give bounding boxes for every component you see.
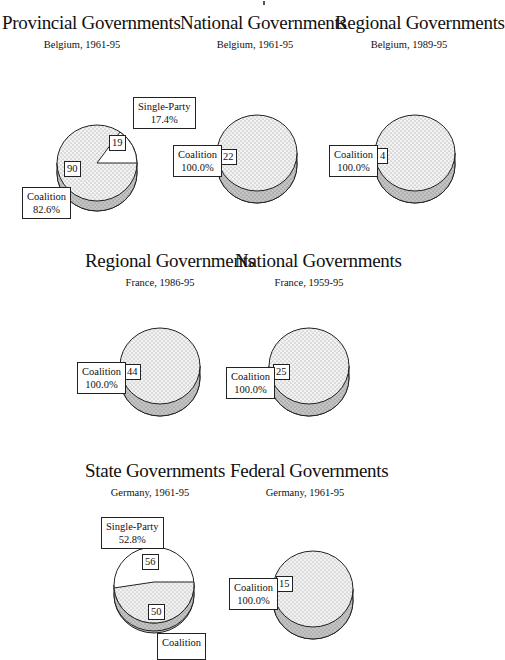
chart-subtitle: France, 1959-95 (235, 277, 383, 288)
label-pct: 17.4% (138, 113, 191, 126)
slice-count-coalition: 50 (148, 604, 165, 620)
label-name: Coalition (234, 581, 273, 594)
label-pct: 100.0% (82, 378, 121, 391)
label-name: Coalition (178, 148, 217, 161)
chart-title: Provincial Governments (2, 12, 162, 34)
slice-label-coalition: Coalition (157, 633, 206, 660)
chart-title: Regional Governments (335, 12, 483, 34)
chart-subtitle: Belgium, 1961-95 (2, 39, 162, 50)
chart-title: National Governments (235, 250, 383, 272)
label-pct: 82.6% (27, 203, 66, 216)
label-name: Coalition (162, 636, 201, 649)
chart-subtitle: Germany, 1961-95 (85, 487, 215, 498)
slice-label-single-party: Single-Party 52.8% (101, 517, 164, 549)
label-pct: 100.0% (231, 383, 270, 396)
chart-subtitle: Belgium, 1961-95 (180, 39, 330, 50)
slice-count-coalition: 15 (276, 576, 293, 592)
chart-title: Federal Governments (230, 460, 380, 482)
chart-title: Regional Governments (85, 250, 235, 272)
chart-title: State Governments (85, 460, 215, 482)
pie-chart (268, 545, 362, 645)
slice-label-single-party: Single-Party 17.4% (133, 97, 196, 129)
slice-count-single-party: 56 (142, 554, 159, 570)
slice-label-coalition: Coalition 100.0% (173, 145, 222, 177)
slice-count-coalition: 22 (220, 149, 237, 165)
chart-subtitle: France, 1986-95 (85, 277, 235, 288)
slice-count-coalition: 44 (124, 364, 141, 380)
label-pct: 100.0% (334, 161, 373, 174)
label-name: Coalition (231, 370, 270, 383)
slice-label-coalition: Coalition 82.6% (22, 187, 71, 219)
slice-count-coalition: 25 (273, 364, 290, 380)
label-pct: 100.0% (178, 161, 217, 174)
chart-title: National Governments (180, 12, 330, 34)
chart-subtitle: Belgium, 1989-95 (335, 39, 483, 50)
page-mark (263, 1, 265, 5)
label-name: Single-Party (106, 520, 159, 533)
label-pct: 52.8% (106, 533, 159, 546)
slice-count-coalition: 4 (377, 148, 388, 164)
label-name: Single-Party (138, 100, 191, 113)
slice-label-coalition: Coalition 100.0% (226, 367, 275, 399)
slice-count-coalition: 90 (64, 161, 81, 177)
slice-label-coalition: Coalition 100.0% (77, 362, 126, 394)
chart-subtitle: Germany, 1961-95 (230, 487, 380, 498)
label-pct: 100.0% (234, 594, 273, 607)
label-name: Coalition (334, 148, 373, 161)
label-name: Coalition (82, 365, 121, 378)
label-name: Coalition (27, 190, 66, 203)
slice-count-single-party: 19 (109, 135, 126, 151)
slice-label-coalition: Coalition 100.0% (229, 578, 278, 610)
slice-label-coalition: Coalition 100.0% (329, 145, 378, 177)
